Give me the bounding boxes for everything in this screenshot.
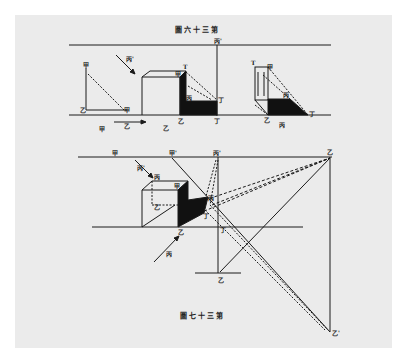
point-label: 甲 [112,149,118,157]
point-label: 甲' [169,149,177,157]
point-label: 乙 [124,122,130,130]
cross-diagonal [220,158,330,272]
point-label: 甲 [175,70,181,78]
dashed-ray [210,205,328,330]
right-shadow [268,99,308,115]
point-label: 丁 [203,212,209,220]
point-label: 丙 [279,121,285,129]
point-label: 甲 [267,63,273,71]
point-label: 丙' [137,164,145,172]
point-label: 乙 [154,203,160,211]
triangle-dashed [88,74,124,110]
point-label: 乙 [163,124,169,132]
point-label: 甲 [83,61,89,69]
point-label: 乙' [332,329,340,337]
point-label: 乙 [327,148,333,156]
cube-front [142,77,180,115]
point-label: 丁 [218,96,224,104]
point-label: 甲 [174,182,180,190]
point-label: 乙 [178,228,184,236]
point-label: 丙 [186,94,192,102]
long-diagonal [172,158,330,332]
point-label: 丁 [309,110,315,118]
point-label: 丙 [208,194,214,202]
point-label: 甲 [99,125,105,133]
point-label: T [251,59,256,66]
point-label: 乙 [218,276,224,284]
point-label: 丙' [214,37,222,45]
point-label: 乙 [264,116,270,124]
figure-37 [78,157,332,332]
cast-shadow [180,71,217,115]
point-label: 丙' [213,149,221,157]
arrow-head-icon [141,120,146,124]
point-label: 乙 [178,117,184,125]
point-label: 丁 [220,226,226,234]
vanishing-ray [205,158,330,200]
point-label: 丙 [166,250,172,258]
figure-diagrams: 丙' 甲 乙 甲 丙' T 甲 丙 丁 乙 丁 甲 乙 乙 T 甲 丙 乙 丙 … [0,0,406,354]
cast-shadow [178,181,208,227]
cube-front [142,190,178,227]
plane-diag [255,100,268,115]
figure-36 [69,45,331,124]
point-label: T [183,63,188,70]
point-label: 丙' [126,55,134,63]
plane-rect [255,67,268,100]
point-label: 乙 [80,106,86,114]
point-label: 丙 [154,173,160,181]
point-label: 丙 [283,91,289,99]
point-label: 丁 [214,117,220,125]
point-label: 甲 [124,106,130,114]
